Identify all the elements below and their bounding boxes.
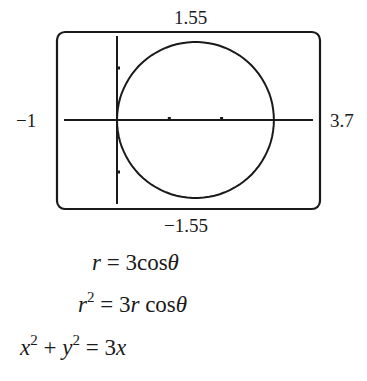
equation-multiplied: r2 = 3r cosθ bbox=[78, 293, 187, 316]
cos-text: cos bbox=[139, 292, 175, 317]
var-theta: θ bbox=[176, 292, 187, 317]
var-y: y bbox=[62, 335, 72, 360]
equation-rectangular: x2 + y2 = 3x bbox=[20, 336, 126, 359]
exponent: 2 bbox=[30, 332, 38, 348]
exponent: 2 bbox=[72, 332, 80, 348]
calculator-screen bbox=[0, 0, 367, 381]
eq-text: = 3 bbox=[94, 292, 130, 317]
var-x: x bbox=[116, 335, 126, 360]
var-theta: θ bbox=[168, 250, 179, 275]
var-x: x bbox=[20, 335, 30, 360]
plus-text: + bbox=[38, 335, 62, 360]
eq-text: = 3 bbox=[80, 335, 116, 360]
var-r: r bbox=[78, 292, 87, 317]
equation-polar: r = 3cosθ bbox=[92, 251, 179, 274]
eq-text: = 3cos bbox=[101, 250, 168, 275]
var-r: r bbox=[92, 250, 101, 275]
